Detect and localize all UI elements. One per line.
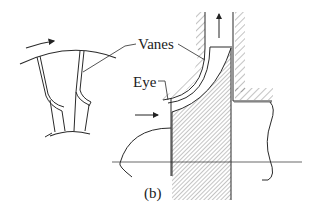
shaft: [262, 102, 273, 180]
eye-label: Eye: [133, 75, 156, 90]
vanes-label: Vanes: [138, 37, 174, 52]
figure-caption: (b): [144, 186, 162, 201]
impeller-front-view: [20, 41, 136, 137]
centrifugal-impeller-diagram: [0, 0, 317, 211]
rotation-arrow-icon: [26, 41, 54, 48]
